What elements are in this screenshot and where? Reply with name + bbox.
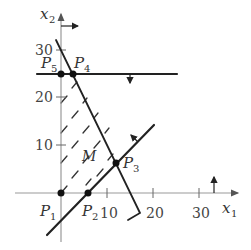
vertex-p5 <box>58 71 65 78</box>
svg-text:1: 1 <box>231 208 237 219</box>
svg-text:2: 2 <box>49 14 55 25</box>
svg-text:x: x <box>40 5 49 23</box>
x1-tick-label-20: 20 <box>146 205 164 221</box>
svg-text:5: 5 <box>51 63 57 74</box>
label-p5: P 5 <box>40 54 57 74</box>
x2-tick-label-20: 20 <box>35 89 53 105</box>
x1-tick-label-10: 10 <box>100 205 118 221</box>
x1-tick-label-30: 30 <box>192 205 210 221</box>
svg-text:2: 2 <box>92 211 98 222</box>
label-p1: P 1 <box>39 202 56 222</box>
svg-text:x: x <box>222 199 231 217</box>
label-p4: P 4 <box>73 54 90 74</box>
label-p2: P 2 <box>81 202 98 222</box>
label-p3: P 3 <box>122 154 139 174</box>
svg-text:3: 3 <box>133 163 139 174</box>
vertices <box>58 71 120 197</box>
lp-diagram: 10 20 30 10 20 30 x 1 x 2 P 1 <box>0 0 251 250</box>
vertex-p1 <box>58 190 65 197</box>
vertex-p3 <box>113 160 120 167</box>
svg-text:1: 1 <box>50 211 56 222</box>
x2-axis-label: x 2 <box>40 5 55 25</box>
region-label-m: M <box>81 148 97 164</box>
svg-text:4: 4 <box>84 63 90 74</box>
arrow-up-left-icon <box>131 135 138 142</box>
x1-axis-label: x 1 <box>222 199 237 219</box>
x2-tick-label-10: 10 <box>35 137 53 153</box>
vertex-p2 <box>85 190 92 197</box>
